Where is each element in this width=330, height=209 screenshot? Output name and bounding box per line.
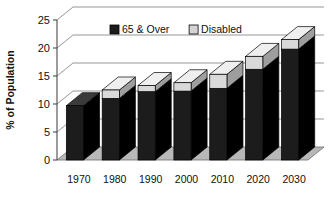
bar-65-over-side: [299, 36, 315, 160]
bar-65-over-side: [227, 75, 243, 160]
x-tick-label: 2000: [175, 173, 199, 185]
x-tick-label: 2010: [211, 173, 235, 185]
bar-disabled-front: [281, 40, 298, 50]
legend: 65 & OverDisabled: [110, 23, 242, 35]
bar-group: 2010: [210, 61, 243, 185]
bar-65-over-front: [138, 92, 155, 160]
y-tick-label: 5: [44, 126, 50, 138]
bar-65-over-front: [102, 98, 119, 160]
bar-group: 1990: [138, 73, 171, 185]
y-tick-label: 20: [38, 42, 50, 54]
gridline-riser: [57, 63, 73, 76]
y-tick-label: 0: [44, 154, 50, 166]
gridline-riser: [57, 35, 73, 48]
x-tick-label: 1970: [67, 173, 91, 185]
bar-65-over-side: [191, 78, 207, 160]
population-stacked-bar-chart: 0510152025% of Population197019801990200…: [0, 0, 330, 209]
bar-disabled-front: [246, 56, 263, 69]
legend-swatch-disabled: [189, 25, 198, 34]
y-tick-label: 15: [38, 70, 50, 82]
y-axis-title: % of Population: [4, 50, 16, 129]
bar-disabled-front: [174, 83, 191, 91]
bar-65-over-front: [174, 91, 191, 160]
bar-65-over-front: [281, 49, 298, 160]
bar-group: 2030: [281, 27, 314, 185]
bar-65-over-side: [155, 79, 171, 160]
legend-label-65-over: 65 & Over: [122, 23, 170, 35]
bar-65-over-side: [263, 56, 279, 160]
x-tick-label: 1990: [139, 173, 163, 185]
bar-disabled-front: [210, 74, 227, 88]
bar-65-over-front: [210, 88, 227, 160]
y-tick-label: 10: [38, 98, 50, 110]
bar-group: 2000: [174, 70, 207, 185]
bar-group: 1980: [102, 77, 135, 185]
bar-group: 1970: [66, 93, 99, 185]
bar-65-over-front: [66, 106, 83, 160]
chart-container: 0510152025% of Population197019801990200…: [0, 0, 330, 209]
x-tick-label: 1980: [103, 173, 127, 185]
x-tick-label: 2030: [282, 173, 306, 185]
bar-65-over-front: [246, 69, 263, 160]
bar-disabled-front: [102, 90, 119, 98]
legend-label-disabled: Disabled: [201, 23, 242, 35]
y-tick-label: 25: [38, 14, 50, 26]
bar-group: 2020: [246, 43, 279, 185]
bar-disabled-front: [138, 86, 155, 92]
gridline-riser: [57, 7, 73, 20]
legend-swatch-65-over: [110, 25, 119, 34]
x-tick-label: 2020: [247, 173, 271, 185]
